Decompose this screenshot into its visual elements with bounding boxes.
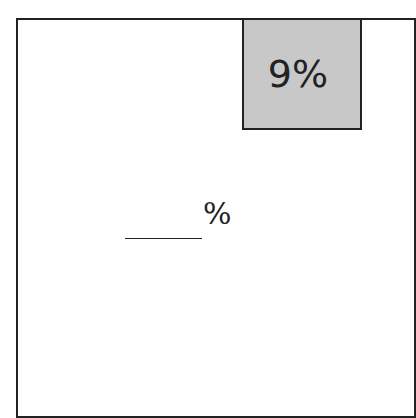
answer-blank[interactable] xyxy=(125,238,202,239)
percent-sign: % xyxy=(203,196,232,231)
shaded-percent-label: 9% xyxy=(242,18,354,130)
